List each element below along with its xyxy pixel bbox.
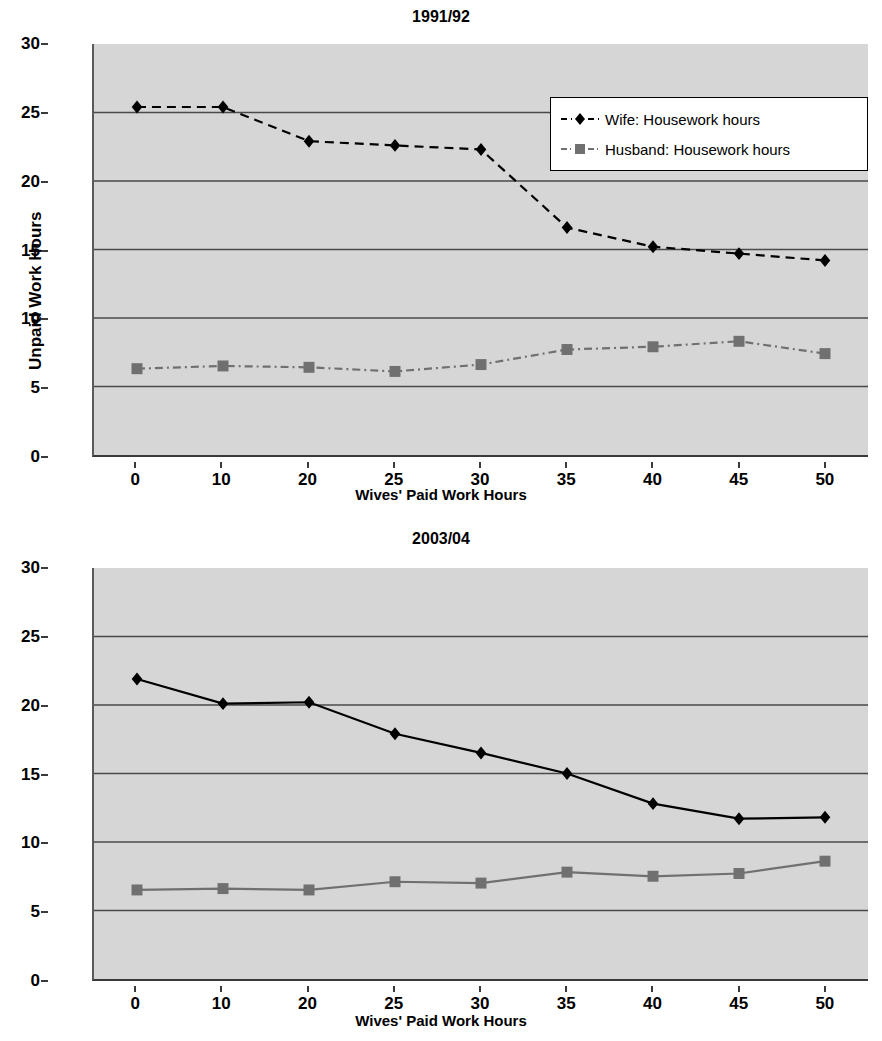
legend-label-wife: Wife: Housework hours [605, 111, 760, 128]
x-axis-tick-mark [307, 462, 309, 468]
plot-area [92, 568, 868, 981]
x-axis-tick-mark [565, 986, 567, 992]
diamond-marker-icon [559, 110, 601, 128]
y-axis-tick-label: 25 [21, 627, 40, 647]
x-axis-tick-mark [134, 986, 136, 992]
data-point-marker [390, 139, 401, 152]
data-point-marker [648, 871, 659, 882]
data-point-marker [820, 254, 831, 267]
data-point-marker [218, 360, 229, 371]
y-axis-tick-mark [41, 842, 48, 844]
data-point-marker [648, 240, 659, 253]
data-point-marker [390, 366, 401, 377]
y-axis-tick-label: 30 [21, 558, 40, 578]
data-point-marker [304, 884, 315, 895]
data-point-marker [304, 696, 315, 709]
x-axis-tick-mark [565, 462, 567, 468]
x-axis-tick-mark [220, 462, 222, 468]
data-point-marker [562, 221, 573, 234]
y-axis-tick-label: 10 [21, 309, 40, 329]
chart-title: 1991/92 [0, 8, 882, 26]
data-point-marker [476, 878, 487, 889]
data-point-marker [218, 101, 229, 114]
x-axis-tick-mark [220, 986, 222, 992]
x-axis-tick-label: 25 [384, 994, 403, 1014]
x-axis-tick-label: 10 [212, 994, 231, 1014]
x-axis-tick-label: 50 [815, 994, 834, 1014]
y-axis-tick-label: 5 [31, 902, 40, 922]
legend: Wife: Housework hours Husband: Housework… [550, 97, 868, 171]
y-axis-tick-label: 0 [31, 971, 40, 991]
chart-figure-1991-92: 1991/92 Unpaid Work Hours 051015202530 0… [0, 0, 882, 512]
chart-figure-2003-04: 2003/04 Unpaid Work Hours 051015202530 0… [0, 520, 882, 1041]
data-point-marker [820, 811, 831, 824]
y-axis-tick-mark [41, 636, 48, 638]
y-axis-tick-mark [41, 43, 48, 45]
x-axis-tick-mark [134, 462, 136, 468]
y-axis-tick-mark [41, 318, 48, 320]
y-axis-tick-label: 5 [31, 378, 40, 398]
x-axis-tick-mark [824, 462, 826, 468]
x-axis-tick-label: 35 [557, 994, 576, 1014]
y-axis-tick-mark [41, 567, 48, 569]
y-axis-tick-mark [41, 705, 48, 707]
y-axis-tick-mark [41, 456, 48, 458]
y-axis-tick-label: 0 [31, 447, 40, 467]
x-axis-tick-label: 0 [130, 994, 139, 1014]
data-point-marker [476, 359, 487, 370]
chart-canvas [94, 568, 868, 979]
data-point-marker [390, 876, 401, 887]
y-axis-tick-mark [41, 387, 48, 389]
chart-title: 2003/04 [0, 530, 882, 548]
x-axis-tick-mark [393, 986, 395, 992]
x-axis-tick-mark [479, 986, 481, 992]
y-axis-tick-mark [41, 181, 48, 183]
data-point-marker [820, 856, 831, 867]
x-axis-tick-label: 40 [643, 994, 662, 1014]
x-axis-label: Wives' Paid Work Hours [0, 486, 882, 503]
data-point-marker [562, 867, 573, 878]
y-axis-tick-labels: 051015202530 [0, 44, 92, 457]
data-point-marker [132, 884, 143, 895]
data-point-marker [132, 101, 143, 114]
x-axis-tick-mark [651, 986, 653, 992]
y-axis-tick-label: 20 [21, 696, 40, 716]
data-point-marker [734, 868, 745, 879]
x-axis-tick-mark [307, 986, 309, 992]
x-axis-tick-mark [738, 986, 740, 992]
data-point-marker [132, 673, 143, 686]
y-axis-tick-mark [41, 980, 48, 982]
data-point-marker [648, 797, 659, 810]
legend-item-husband: Husband: Housework hours [559, 134, 857, 164]
x-axis-tick-mark [651, 462, 653, 468]
legend-label-husband: Husband: Housework hours [605, 141, 790, 158]
data-point-marker [218, 697, 229, 710]
x-axis-tick-mark [738, 462, 740, 468]
y-axis-tick-label: 15 [21, 241, 40, 261]
y-axis-tick-label: 20 [21, 172, 40, 192]
data-point-marker [390, 727, 401, 740]
x-axis-tick-label: 20 [298, 994, 317, 1014]
x-axis-tick-label: 30 [471, 994, 490, 1014]
data-point-marker [218, 883, 229, 894]
y-axis-tick-label: 15 [21, 765, 40, 785]
data-point-marker [132, 363, 143, 374]
y-axis-tick-mark [41, 911, 48, 913]
legend-item-wife: Wife: Housework hours [559, 104, 857, 134]
y-axis-tick-labels: 051015202530 [0, 568, 92, 981]
y-axis-tick-mark [41, 112, 48, 114]
x-axis-tick-label: 45 [729, 994, 748, 1014]
square-marker-icon [559, 140, 601, 158]
data-point-marker [476, 746, 487, 759]
data-point-marker [734, 812, 745, 825]
data-point-marker [820, 348, 831, 359]
data-point-marker [304, 362, 315, 373]
x-axis-tick-labels: 01020253035404550 [92, 986, 868, 1014]
data-point-marker [734, 336, 745, 347]
data-point-marker [562, 344, 573, 355]
data-point-marker [562, 767, 573, 780]
x-axis-tick-mark [824, 986, 826, 992]
y-axis-tick-mark [41, 774, 48, 776]
y-axis-tick-label: 30 [21, 34, 40, 54]
y-axis-tick-mark [41, 250, 48, 252]
